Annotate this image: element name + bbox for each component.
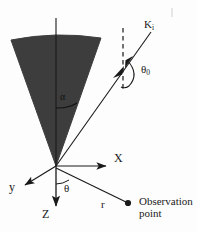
label-radius: r bbox=[101, 199, 105, 211]
scan-artifact-speck bbox=[171, 8, 173, 17]
label-observation-point: Observation point bbox=[139, 196, 197, 219]
label-theta-zero: θ0 bbox=[141, 64, 150, 76]
incident-ray-arrowhead bbox=[113, 66, 124, 78]
label-axis-z: Z bbox=[42, 208, 49, 221]
axis-y-line bbox=[25, 166, 56, 185]
label-cone-half-angle: α bbox=[60, 92, 65, 103]
label-axis-x: X bbox=[114, 152, 123, 165]
label-theta0-subscript: 0 bbox=[146, 68, 150, 77]
label-axis-y: y bbox=[9, 181, 15, 194]
label-k-main: K bbox=[144, 18, 152, 30]
label-polar-angle: θ bbox=[64, 183, 69, 195]
figure-canvas: Ki θ0 α X y Z θ r Observation point bbox=[0, 0, 197, 232]
observation-point-dot bbox=[125, 200, 131, 206]
label-incident-wave-vector: Ki bbox=[144, 19, 154, 31]
label-k-subscript: i bbox=[152, 23, 154, 32]
